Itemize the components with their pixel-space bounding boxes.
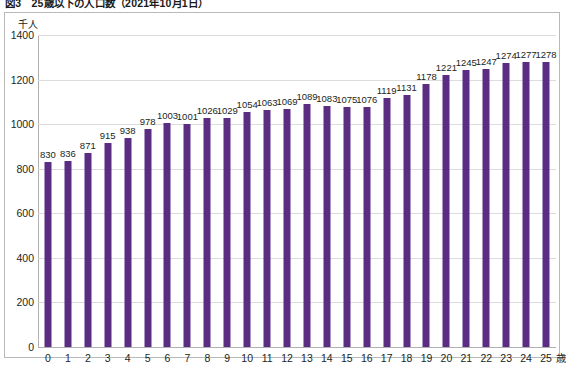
bar-value-label: 1277	[516, 50, 537, 60]
bar[interactable]	[44, 162, 51, 347]
bar-value-label: 1221	[436, 63, 457, 73]
bar-value-label: 1131	[396, 83, 416, 93]
y-tick-label-0: 0	[28, 342, 34, 353]
x-axis-unit-label: 歳	[556, 351, 566, 365]
bar[interactable]	[284, 109, 291, 347]
bar[interactable]	[303, 104, 310, 347]
bar[interactable]	[323, 106, 330, 347]
bar[interactable]	[104, 143, 111, 347]
bar-value-label: 1274	[496, 51, 517, 61]
x-tick-label-2: 2	[85, 351, 91, 365]
y-tick-label-600: 600	[16, 208, 34, 219]
bar-value-label: 836	[60, 149, 76, 159]
bar-slot: 1083	[317, 35, 337, 347]
y-tick-label-800: 800	[16, 163, 34, 174]
x-tick-label-5: 5	[145, 351, 151, 365]
chart-frame: 千人 0200400600800100012001400 83083687191…	[4, 12, 560, 358]
bar[interactable]	[164, 123, 171, 347]
bar-slot: 830	[38, 35, 58, 347]
x-tick-label-17: 17	[381, 351, 393, 365]
bar-slot: 915	[98, 35, 118, 347]
x-tick-label-6: 6	[165, 351, 171, 365]
bar[interactable]	[423, 84, 430, 347]
bar-value-label: 1029	[217, 106, 238, 116]
figure-caption: 図3 25歳以下の人口数（2021年10月1日）	[5, 0, 208, 10]
bar[interactable]	[503, 63, 510, 347]
bar-slot: 1069	[277, 35, 297, 347]
bar[interactable]	[523, 62, 530, 347]
bar-slot: 1247	[476, 35, 496, 347]
bar-slot: 1029	[217, 35, 237, 347]
bar-slot: 1003	[158, 35, 178, 347]
bar-slot: 1221	[436, 35, 456, 347]
bar-value-label: 1003	[157, 111, 178, 121]
y-tick-label-1200: 1200	[11, 74, 34, 85]
bar-slot: 938	[118, 35, 138, 347]
y-axis-tick-labels: 0200400600800100012001400	[5, 35, 34, 347]
bar[interactable]	[443, 75, 450, 347]
bar-value-label: 1026	[197, 106, 218, 116]
bar-value-label: 1069	[276, 97, 297, 107]
bar[interactable]	[244, 112, 251, 347]
bar-slot: 1274	[496, 35, 516, 347]
x-tick-label-14: 14	[321, 351, 333, 365]
bar[interactable]	[64, 161, 71, 347]
bar-value-label: 1119	[377, 86, 397, 96]
x-axis-tick-labels: 0123456789101112131415161718192021222324…	[38, 351, 556, 365]
bar[interactable]	[363, 107, 370, 347]
y-tick-label-200: 200	[16, 297, 34, 308]
x-tick-label-21: 21	[461, 351, 473, 365]
bar[interactable]	[483, 69, 490, 347]
bar-slot: 1063	[257, 35, 277, 347]
bar[interactable]	[463, 70, 470, 347]
bar[interactable]	[124, 138, 131, 347]
bar-slot: 871	[78, 35, 98, 347]
x-tick-label-8: 8	[204, 351, 210, 365]
x-tick-label-3: 3	[105, 351, 111, 365]
bar-value-label: 938	[120, 126, 136, 136]
x-tick-label-23: 23	[500, 351, 512, 365]
bar[interactable]	[184, 124, 191, 347]
bar[interactable]	[403, 95, 410, 347]
bar[interactable]	[383, 98, 390, 347]
bar-slot: 1131	[397, 35, 417, 347]
bar-slot: 1278	[536, 35, 556, 347]
x-tick-label-19: 19	[421, 351, 433, 365]
plot-area: 8308368719159389781003100110261029105410…	[38, 35, 556, 347]
bar[interactable]	[144, 129, 151, 347]
y-tick-label-1000: 1000	[11, 119, 34, 130]
x-tick-label-1: 1	[65, 351, 71, 365]
bar-value-label: 1083	[316, 94, 337, 104]
bar-slot: 1089	[297, 35, 317, 347]
bar-value-label: 1075	[336, 95, 357, 105]
y-tick-label-400: 400	[16, 252, 34, 263]
x-tick-label-20: 20	[441, 351, 453, 365]
x-tick-label-13: 13	[301, 351, 313, 365]
bar-slot: 1178	[417, 35, 437, 347]
bar-value-label: 830	[40, 150, 56, 160]
bar[interactable]	[543, 62, 550, 347]
x-tick-label-22: 22	[480, 351, 492, 365]
bar[interactable]	[343, 107, 350, 347]
bar[interactable]	[84, 153, 91, 347]
x-tick-label-0: 0	[45, 351, 51, 365]
bar-slot: 1075	[337, 35, 357, 347]
x-tick-label-9: 9	[224, 351, 230, 365]
bar-value-label: 1076	[356, 95, 377, 105]
bar-value-label: 1278	[535, 50, 556, 60]
x-tick-label-4: 4	[125, 351, 131, 365]
bar[interactable]	[204, 118, 211, 347]
bar-slot: 1245	[456, 35, 476, 347]
x-tick-label-7: 7	[185, 351, 191, 365]
bar[interactable]	[264, 110, 271, 347]
bar-value-label: 1245	[456, 58, 477, 68]
x-tick-label-25: 25	[540, 351, 552, 365]
bar[interactable]	[224, 118, 231, 347]
x-tick-label-12: 12	[281, 351, 293, 365]
bar-value-label: 871	[80, 141, 96, 151]
x-tick-label-10: 10	[241, 351, 253, 365]
bar-value-label: 1089	[296, 92, 317, 102]
bar-slot: 1277	[516, 35, 536, 347]
bar-slot: 1076	[357, 35, 377, 347]
bar-value-label: 978	[140, 117, 156, 127]
